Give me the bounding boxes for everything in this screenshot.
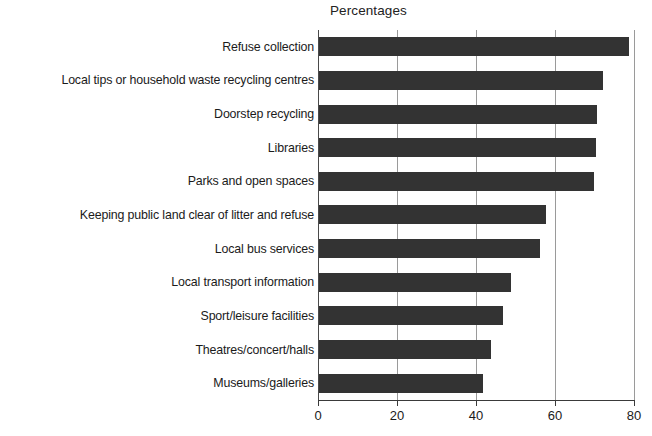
bar bbox=[319, 374, 483, 393]
bar-row bbox=[318, 97, 634, 129]
bar-row bbox=[318, 366, 634, 398]
x-tick-label: 0 bbox=[298, 408, 338, 423]
bar-row bbox=[318, 265, 634, 297]
category-label: Parks and open spaces bbox=[0, 174, 314, 188]
bar bbox=[319, 172, 594, 191]
bar bbox=[319, 71, 603, 90]
category-label: Keeping public land clear of litter and … bbox=[0, 208, 314, 222]
bar-row bbox=[318, 299, 634, 331]
x-tick-label: 40 bbox=[456, 408, 496, 423]
x-tick-label: 20 bbox=[377, 408, 417, 423]
category-label: Museums/galleries bbox=[0, 376, 314, 390]
bar-row bbox=[318, 64, 634, 96]
tick-mark bbox=[397, 400, 398, 406]
scan-artifact bbox=[0, 424, 652, 436]
category-label: Theatres/concert/halls bbox=[0, 343, 314, 357]
bar-row bbox=[318, 232, 634, 264]
tick-mark bbox=[634, 400, 635, 406]
bar-chart: Percentages Refuse collectionLocal tips … bbox=[0, 0, 652, 436]
bar bbox=[319, 273, 511, 292]
category-label: Local transport information bbox=[0, 275, 314, 289]
bar bbox=[319, 340, 491, 359]
bar-row bbox=[318, 165, 634, 197]
category-label: Sport/leisure facilities bbox=[0, 309, 314, 323]
tick-mark bbox=[555, 400, 556, 406]
chart-title: Percentages bbox=[330, 3, 407, 18]
bar bbox=[319, 306, 503, 325]
category-label: Libraries bbox=[0, 141, 314, 155]
bar-row bbox=[318, 333, 634, 365]
bar bbox=[319, 239, 540, 258]
bar bbox=[319, 205, 546, 224]
category-label: Refuse collection bbox=[0, 40, 314, 54]
category-label: Doorstep recycling bbox=[0, 107, 314, 121]
bar bbox=[319, 37, 629, 56]
bar-row bbox=[318, 30, 634, 62]
x-tick-label: 60 bbox=[535, 408, 575, 423]
bar-row bbox=[318, 198, 634, 230]
gridline bbox=[634, 30, 635, 400]
plot-area bbox=[318, 30, 634, 400]
tick-mark bbox=[318, 400, 319, 406]
bar bbox=[319, 138, 596, 157]
category-label: Local bus services bbox=[0, 242, 314, 256]
tick-mark bbox=[476, 400, 477, 406]
bar bbox=[319, 105, 597, 124]
x-tick-label: 80 bbox=[614, 408, 652, 423]
category-label: Local tips or household waste recycling … bbox=[0, 73, 314, 87]
bar-row bbox=[318, 131, 634, 163]
